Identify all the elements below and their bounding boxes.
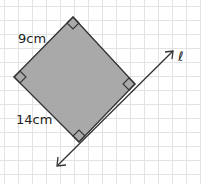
line-label: ℓ [177, 49, 183, 64]
side-label-9cm: 9cm [18, 31, 46, 46]
diagram-svg: 9cm 14cm ℓ [0, 0, 201, 184]
diagram-canvas: 9cm 14cm ℓ [0, 0, 201, 184]
side-label-14cm: 14cm [16, 112, 52, 127]
